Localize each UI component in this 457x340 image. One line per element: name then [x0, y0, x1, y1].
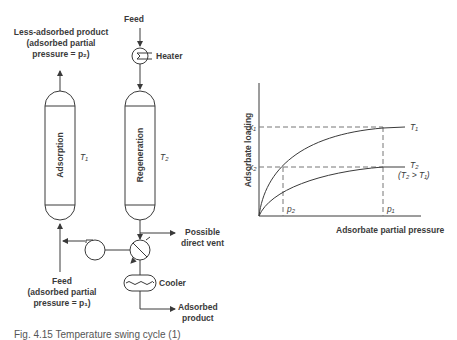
x-tick-p2: p₂	[287, 204, 295, 215]
curve-label-t1: T₁	[410, 122, 418, 133]
pump-icon	[85, 240, 105, 260]
y-tick-x2: x₂	[249, 162, 257, 173]
regeneration-temperature: T₂	[160, 152, 168, 163]
figure-caption: Fig. 4.15 Temperature swing cycle (1)	[14, 329, 181, 340]
regeneration-label: Regeneration	[135, 128, 146, 182]
cooler-icon	[124, 275, 156, 291]
heater-label: Heater	[156, 51, 182, 62]
adsorption-temperature: T₁	[80, 152, 88, 163]
x-tick-p1: p₁	[387, 204, 394, 215]
possible-direct-vent-label: Possible direct vent	[181, 227, 224, 249]
adsorbed-product-label: Adsorbed product	[178, 302, 218, 324]
feed-top-label: Feed	[124, 14, 144, 25]
y-tick-x1: x₁	[249, 122, 256, 133]
feed-bottom-label: Feed (adsorbed partial pressure = p₁)	[24, 276, 100, 309]
less-adsorbed-product-label: Less-adsorbed product (adsorbed partial …	[12, 27, 110, 60]
curve-label-t2-note: (T₂ > T₁)	[398, 170, 430, 181]
x-axis-label: Adsorbate partial pressure	[336, 225, 444, 236]
isotherm-chart	[259, 83, 421, 216]
adsorption-label: Adsorption	[55, 132, 66, 177]
cooler-label: Cooler	[159, 278, 186, 289]
